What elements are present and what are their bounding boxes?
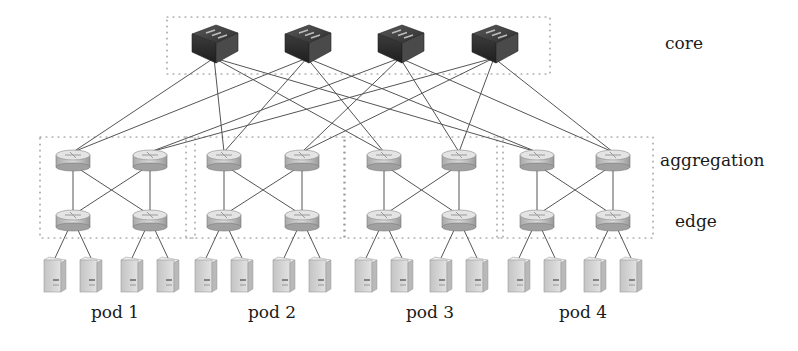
pod-4-label: pod 4 xyxy=(559,302,607,322)
core-agg-link xyxy=(214,58,224,152)
pod-3-label: pod 3 xyxy=(406,302,454,322)
edge-switch-icon xyxy=(285,210,319,231)
aggregation-switch-icon xyxy=(442,150,476,171)
pod-1-label: pod 1 xyxy=(91,302,139,322)
diagram-canvas: core aggregation edge pod 1 pod 2 pod 3 … xyxy=(0,0,798,351)
edge-tier-label: edge xyxy=(675,211,717,231)
core-agg-link xyxy=(214,58,384,152)
edge-server-link xyxy=(77,228,91,258)
core-switch-icon xyxy=(192,25,238,63)
pod-2-label: pod 2 xyxy=(248,302,296,322)
aggregation-switch-icon xyxy=(285,150,319,171)
core-agg-link xyxy=(224,58,307,152)
core-tier-label: core xyxy=(665,33,703,53)
aggregation-switch-icon xyxy=(367,150,401,171)
server-icon xyxy=(391,257,413,292)
edge-switch-icon xyxy=(442,210,476,231)
edge-switch-icon xyxy=(133,210,167,231)
aggregation-switch-icon xyxy=(56,150,90,171)
edge-switch-icon xyxy=(520,210,554,231)
server-icon xyxy=(508,257,530,292)
core-agg-link xyxy=(302,58,400,152)
edge-switch-icon xyxy=(596,210,630,231)
server-icon xyxy=(309,257,331,292)
core-switch-icon xyxy=(378,25,424,63)
core-agg-link xyxy=(494,58,613,152)
core-agg-link xyxy=(150,58,494,152)
core-agg-link xyxy=(400,58,613,152)
aggregation-switch-icon xyxy=(596,150,630,171)
server-icon xyxy=(544,257,566,292)
server-icon xyxy=(80,257,102,292)
edge-server-link xyxy=(306,228,320,258)
server-icon xyxy=(620,257,642,292)
server-icon xyxy=(121,257,143,292)
server-icon xyxy=(430,257,452,292)
aggregation-switch-icon xyxy=(520,150,554,171)
aggregation-tier-label: aggregation xyxy=(660,150,765,170)
edge-server-link xyxy=(366,228,380,258)
edge-switch-icon xyxy=(56,210,90,231)
core-switch-icon xyxy=(285,25,331,63)
server-icon xyxy=(273,257,295,292)
edge-server-link xyxy=(55,228,69,258)
server-icon xyxy=(355,257,377,292)
aggregation-switch-icon xyxy=(207,150,241,171)
edge-server-link xyxy=(154,228,168,258)
edge-server-link xyxy=(617,228,631,258)
edge-server-link xyxy=(541,228,555,258)
core-agg-link xyxy=(307,58,384,152)
edge-server-link xyxy=(388,228,402,258)
fat-tree-diagram: core aggregation edge pod 1 pod 2 pod 3 … xyxy=(0,0,798,351)
server-icon xyxy=(466,257,488,292)
edge-server-link xyxy=(519,228,533,258)
edge-server-link xyxy=(132,228,146,258)
core-agg-link xyxy=(73,58,214,152)
edge-server-link xyxy=(228,228,242,258)
server-icon xyxy=(157,257,179,292)
edge-server-link xyxy=(595,228,609,258)
core-agg-link xyxy=(73,58,307,152)
server-icon xyxy=(195,257,217,292)
aggregation-switch-icon xyxy=(133,150,167,171)
core-agg-link xyxy=(302,58,494,152)
edge-switch-icon xyxy=(207,210,241,231)
core-switch-icon xyxy=(472,25,518,63)
edge-switch-icon xyxy=(367,210,401,231)
edge-server-link xyxy=(206,228,220,258)
tier-boxes xyxy=(40,17,653,238)
edge-server-link xyxy=(441,228,455,258)
server-icon xyxy=(584,257,606,292)
edge-server-link xyxy=(463,228,477,258)
server-icon xyxy=(44,257,66,292)
server-icon xyxy=(231,257,253,292)
edge-server-link xyxy=(284,228,298,258)
core-agg-link xyxy=(307,58,537,152)
core-agg-link xyxy=(400,58,459,152)
core-agg-link xyxy=(150,58,400,152)
